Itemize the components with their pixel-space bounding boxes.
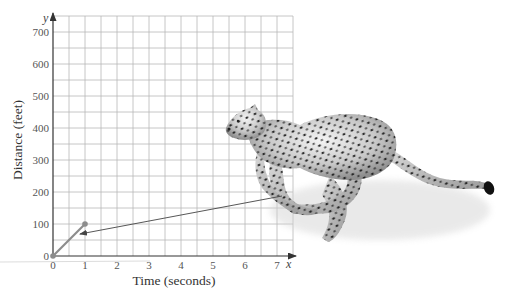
y-tick-labels: 0100200300400500600700: [33, 26, 50, 262]
y-tick-label: 100: [33, 218, 50, 230]
y-tick-label: 700: [33, 26, 50, 38]
x-tick-label: 7: [274, 259, 280, 271]
x-tick-label: 6: [242, 259, 248, 271]
x-tick-label: 0: [50, 259, 56, 271]
y-tick-label: 300: [33, 154, 50, 166]
y-tick-label: 200: [33, 186, 50, 198]
data-point: [50, 253, 56, 259]
x-tick-labels: 01234567: [50, 259, 280, 271]
y-tick-label: 0: [44, 250, 50, 262]
x-tick-label: 3: [146, 259, 152, 271]
x-axis-variable: x: [285, 257, 292, 271]
data-point: [82, 221, 88, 227]
x-axis-title: Time (seconds): [132, 273, 215, 288]
y-axis-variable: y: [42, 11, 49, 25]
y-tick-label: 400: [33, 122, 50, 134]
cheetah-illustration: [226, 104, 496, 242]
x-tick-label: 5: [210, 259, 216, 271]
y-tick-label: 500: [33, 90, 50, 102]
x-tick-label: 1: [82, 259, 88, 271]
page-rule: [0, 261, 150, 262]
x-tick-label: 2: [114, 259, 120, 271]
x-tick-label: 4: [178, 259, 184, 271]
y-axis-title: Distance (feet): [10, 100, 25, 180]
y-tick-label: 600: [33, 58, 50, 70]
chart: 01234567 0100200300400500600700 y x Time…: [0, 0, 511, 297]
